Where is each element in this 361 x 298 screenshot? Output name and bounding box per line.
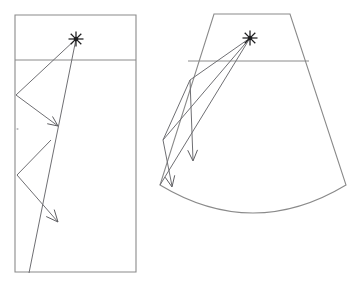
star-ray	[71, 34, 75, 38]
ray-reflection-figure	[0, 0, 361, 298]
ray-path-c	[17, 175, 58, 222]
star-ray	[245, 33, 249, 37]
rectangle-room-outline	[15, 15, 136, 272]
fan-room-outline	[160, 14, 346, 213]
caption-strip	[0, 293, 361, 298]
left-arrow-heads	[46, 116, 58, 222]
star-ray	[77, 34, 81, 38]
star-ray	[251, 39, 255, 43]
star-center	[74, 37, 79, 42]
star-ray	[251, 33, 255, 37]
star-center	[248, 36, 253, 41]
right-panel-fan-room	[160, 14, 346, 213]
left-panel-specks	[16, 128, 18, 130]
left-panel-rectangular-room	[15, 15, 136, 273]
light-source-star-right	[243, 31, 258, 46]
star-ray	[77, 40, 81, 44]
star-ray	[71, 40, 75, 44]
stray-speck-0	[16, 128, 18, 130]
light-source-star-left	[69, 32, 84, 47]
ray-path-d	[17, 140, 51, 175]
ray-path-e	[190, 38, 250, 160]
ray-path-h	[160, 38, 250, 185]
